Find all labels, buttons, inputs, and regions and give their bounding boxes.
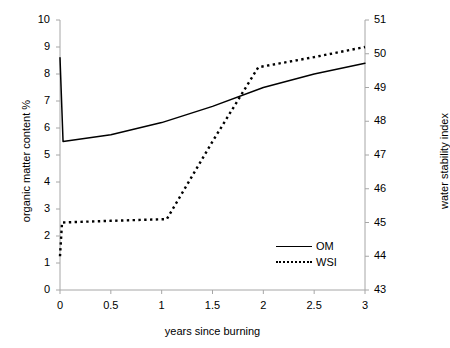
x-axis-tick-label: 1 xyxy=(142,299,182,311)
x-axis-tick-label: 1.5 xyxy=(193,299,233,311)
x-axis-title: years since burning xyxy=(60,325,365,337)
chart-legend: OMWSI xyxy=(276,238,337,270)
y-axis-left-tick-label: 4 xyxy=(20,175,50,187)
y-axis-left-tick-label: 8 xyxy=(20,67,50,79)
y-axis-right-tick-label: 49 xyxy=(374,81,404,93)
y-axis-right-tick-label: 48 xyxy=(374,114,404,126)
y-axis-right-tick-label: 46 xyxy=(374,182,404,194)
y-axis-left-tick-label: 2 xyxy=(20,229,50,241)
y-axis-left-tick-label: 7 xyxy=(20,94,50,106)
legend-item-wsi: WSI xyxy=(276,254,337,270)
y-axis-right-tick-label: 47 xyxy=(374,148,404,160)
y-axis-left-tick-label: 0 xyxy=(20,283,50,295)
legend-label: OM xyxy=(316,240,334,252)
y-axis-left-tick-label: 3 xyxy=(20,202,50,214)
y-axis-left-tick-label: 5 xyxy=(20,148,50,160)
y-axis-left-tick-label: 10 xyxy=(20,13,50,25)
y-axis-right-tick-label: 51 xyxy=(374,13,404,25)
y-axis-right-tick-label: 50 xyxy=(374,47,404,59)
y-axis-left-tick-label: 9 xyxy=(20,40,50,52)
y-axis-right-tick-label: 43 xyxy=(374,283,404,295)
y-axis-right-tick-label: 45 xyxy=(374,216,404,228)
y-axis-right-title: water stability index xyxy=(438,61,450,261)
x-axis-tick-label: 2.5 xyxy=(294,299,334,311)
y-axis-left-tick-label: 1 xyxy=(20,256,50,268)
legend-item-om: OM xyxy=(276,238,337,254)
legend-swatch-wsi-icon xyxy=(276,261,312,263)
series-line-wsi xyxy=(60,47,365,256)
legend-label: WSI xyxy=(316,256,337,268)
x-axis-tick-label: 0 xyxy=(40,299,80,311)
series-line-om xyxy=(60,58,365,142)
x-axis-tick-label: 3 xyxy=(345,299,385,311)
x-axis-tick-label: 0.5 xyxy=(91,299,131,311)
y-axis-left-tick-label: 6 xyxy=(20,121,50,133)
y-axis-right-tick-label: 44 xyxy=(374,249,404,261)
legend-swatch-om-icon xyxy=(276,246,312,247)
x-axis-tick-label: 2 xyxy=(243,299,283,311)
